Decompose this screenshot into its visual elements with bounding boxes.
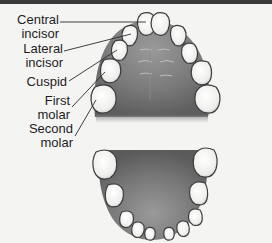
lower-molar-left [93,150,117,179]
arch-separator [96,115,208,123]
label-line: molar [29,136,73,150]
lower-lateral-incisor-left [132,222,144,238]
upper-cuspid-right [182,43,198,63]
label-line: Second [29,122,73,136]
label-line: Cuspid [27,75,67,89]
label-line: incisor [23,56,63,70]
lower-cuspid-right [189,209,203,226]
upper-first-premolar-left [100,59,120,83]
label-second-molar: Second molar [29,122,73,150]
lower-central-incisor-right [164,227,174,240]
lower-premolar-right [190,182,208,205]
upper-first-molar-right [195,85,220,113]
upper-first-premolar-right [191,61,211,85]
upper-central-incisor-right [151,13,170,36]
lower-central-incisor-left [145,227,155,240]
lower-premolar-left [105,184,123,207]
label-line: molar [37,108,70,122]
label-lateral-incisor: Lateral incisor [23,42,63,70]
label-line: Central [17,13,59,27]
label-cuspid: Cuspid [27,75,67,89]
lower-lateral-incisor-right [177,221,189,237]
label-line: Lateral [23,42,63,56]
lower-cuspid-left [120,211,134,228]
label-line: incisor [17,27,59,41]
lower-molar-right [193,148,217,177]
label-line: First [37,94,70,108]
upper-arch [91,13,220,117]
leader-second-molar [75,100,96,136]
upper-lateral-incisor-right [171,25,187,46]
upper-cuspid-left [111,40,127,60]
lower-arch [93,148,217,240]
upper-first-molar-left [91,85,116,113]
label-first-molar: First molar [37,94,70,122]
label-central-incisor: Central incisor [17,13,59,41]
dental-arch-diagram: Central incisor Lateral incisor Cuspid F… [0,0,272,243]
